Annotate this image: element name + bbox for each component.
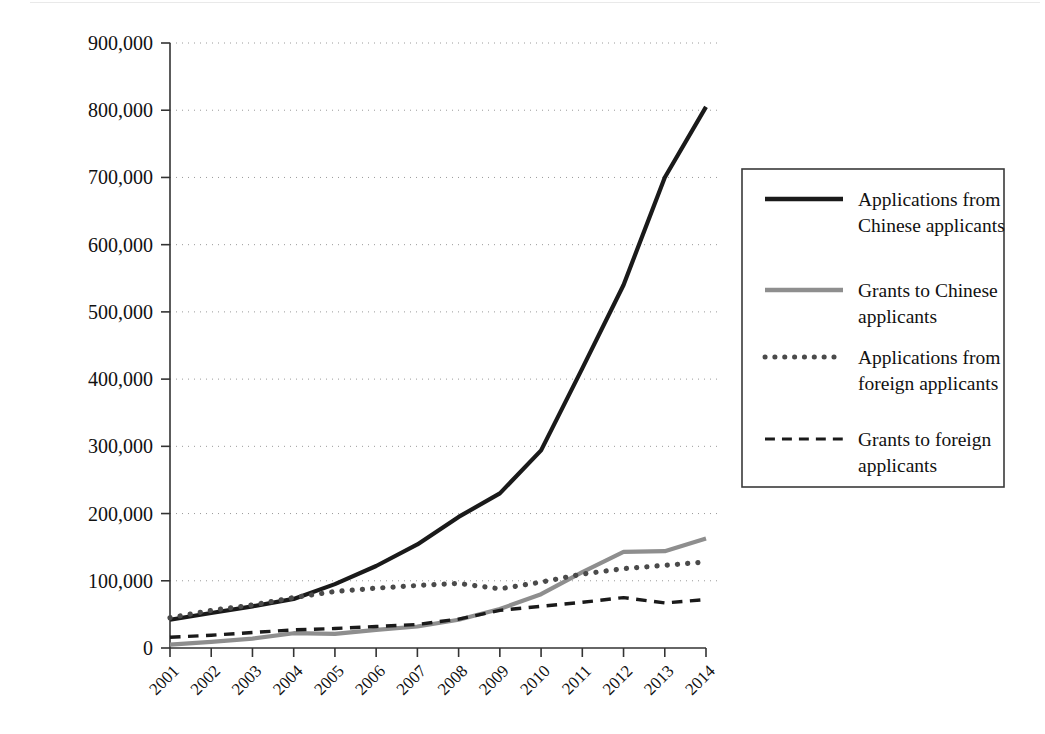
y-tick-label: 100,000 <box>88 570 153 592</box>
series-lines <box>170 107 706 645</box>
y-tick-label: 500,000 <box>88 301 153 323</box>
legend-label-3: Grants to foreign <box>858 429 991 450</box>
legend-label-1-line2: applicants <box>858 306 937 327</box>
y-axis-tick-labels: 0100,000200,000300,000400,000500,000600,… <box>88 32 153 659</box>
legend-label-0: Applications from <box>858 189 1000 210</box>
x-tick-label: 2004 <box>269 661 307 699</box>
legend-label-1: Grants to Chinese <box>858 280 998 301</box>
y-tick-label: 0 <box>143 637 153 659</box>
x-tick-label: 2011 <box>558 661 595 698</box>
x-tick-label: 2013 <box>640 661 677 698</box>
legend-label-2-line2: foreign applicants <box>858 373 998 394</box>
x-tick-label: 2003 <box>228 661 265 698</box>
x-tick-label: 2010 <box>516 661 553 698</box>
x-tick-label: 2012 <box>599 661 636 698</box>
x-axis-tick-labels: 2001200220032004200520062007200820092010… <box>145 661 719 699</box>
x-tick-label: 2007 <box>393 661 431 699</box>
y-axis-ticks <box>161 43 170 648</box>
y-tick-label: 800,000 <box>88 99 153 121</box>
y-tick-label: 200,000 <box>88 503 153 525</box>
legend-label-0-line2: Chinese applicants <box>858 215 1005 236</box>
y-tick-label: 900,000 <box>88 32 153 54</box>
series-line-0 <box>170 107 706 620</box>
x-tick-label: 2006 <box>352 661 389 698</box>
gridlines <box>170 43 722 581</box>
y-tick-label: 700,000 <box>88 166 153 188</box>
x-axis-ticks <box>170 648 706 657</box>
series-line-2 <box>170 562 706 618</box>
y-tick-label: 400,000 <box>88 368 153 390</box>
x-tick-label: 2001 <box>145 661 182 698</box>
y-tick-label: 300,000 <box>88 435 153 457</box>
x-tick-label: 2008 <box>434 661 471 698</box>
x-tick-label: 2005 <box>310 661 347 698</box>
y-tick-label: 600,000 <box>88 234 153 256</box>
legend-label-3-line2: applicants <box>858 455 937 476</box>
line-chart: 0100,000200,000300,000400,000500,000600,… <box>0 0 1045 734</box>
x-tick-label: 2002 <box>187 661 224 698</box>
x-tick-label: 2014 <box>681 661 719 699</box>
legend-label-2: Applications from <box>858 347 1000 368</box>
series-line-1 <box>170 538 706 644</box>
chart-container: 0100,000200,000300,000400,000500,000600,… <box>0 0 1045 734</box>
x-tick-label: 2009 <box>475 661 512 698</box>
